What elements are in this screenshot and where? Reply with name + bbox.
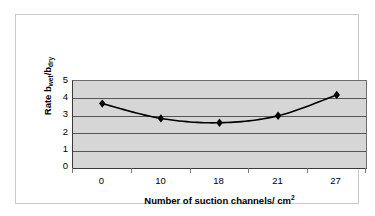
x-tick-label: 10 — [131, 175, 190, 187]
data-point-marker — [216, 119, 223, 127]
figure-frame: Rate bwet/bdry 5 4 3 2 1 0 — [15, 14, 359, 204]
data-point-marker — [333, 91, 340, 99]
x-tickmark — [307, 168, 308, 173]
data-point-marker — [275, 112, 282, 120]
y-tick-label: 3 — [54, 109, 68, 119]
y-tick-label: 1 — [54, 144, 68, 154]
y-tick-label: 0 — [54, 161, 68, 171]
x-axis-title: Number of suction channels/ cm2 — [72, 195, 367, 208]
y-tick-label: 2 — [54, 127, 68, 137]
y-axis-tick-labels: 5 4 3 2 1 0 — [52, 75, 68, 169]
x-tick-label: 27 — [306, 175, 365, 187]
x-axis-tick-labels: 0 10 18 21 27 — [72, 175, 367, 189]
data-point-marker — [99, 99, 106, 107]
y-tick-label: 5 — [54, 75, 68, 85]
series-markers — [99, 91, 340, 127]
x-tickmark — [365, 168, 366, 173]
series-plot — [73, 81, 366, 168]
plot-area — [72, 80, 367, 169]
data-point-marker — [158, 114, 165, 122]
x-tick-label: 21 — [248, 175, 307, 187]
x-tickmark — [72, 168, 73, 173]
x-axis-title-text: Number of suction channels/ cm — [144, 195, 291, 206]
x-tickmark — [190, 168, 191, 173]
y-tick-label: 4 — [54, 92, 68, 102]
x-tick-label: 18 — [189, 175, 248, 187]
x-axis-tickmarks — [72, 168, 367, 174]
chart-figure: Rate bwet/bdry 5 4 3 2 1 0 — [0, 0, 375, 216]
y-axis-title-sub-dry: dry — [47, 57, 54, 67]
x-tickmark — [131, 168, 132, 173]
x-axis-title-superscript: 2 — [291, 194, 295, 201]
x-tick-label: 0 — [72, 175, 131, 187]
x-tickmark — [248, 168, 249, 173]
